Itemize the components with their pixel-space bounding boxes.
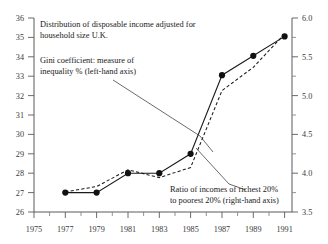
chart-title-note-line: Distribution of disposable income adjust… bbox=[40, 20, 196, 29]
x-tick-label: 1989 bbox=[245, 225, 261, 234]
data-point-marker bbox=[219, 72, 225, 78]
left-tick-label: 36 bbox=[16, 14, 24, 23]
left-tick-label: 26 bbox=[16, 208, 24, 217]
x-axis-ticks bbox=[34, 212, 285, 218]
right-axis-ticks bbox=[292, 18, 298, 212]
x-tick-label: 1979 bbox=[88, 225, 104, 234]
ratio-leader-line bbox=[196, 148, 246, 190]
x-tick-label: 1983 bbox=[151, 225, 167, 234]
gini-annotation-line: inequality % (left-hand axis) bbox=[40, 67, 136, 76]
left-axis-ticks bbox=[28, 18, 34, 212]
right-axis-tick-labels: 6.0 5.5 5.0 4.5 4.0 3.5 bbox=[302, 14, 312, 217]
left-tick-label: 30 bbox=[16, 130, 24, 139]
left-axis-tick-labels: 36 35 34 33 32 31 30 29 28 27 26 bbox=[16, 14, 24, 217]
x-tick-label: 1981 bbox=[120, 225, 136, 234]
data-point-marker bbox=[94, 190, 100, 196]
data-point-marker bbox=[250, 53, 256, 59]
left-tick-label: 34 bbox=[16, 53, 24, 62]
left-tick-label: 28 bbox=[16, 169, 24, 178]
right-tick-label: 6.0 bbox=[302, 14, 312, 23]
gini-annotation-line: Gini coefficient: measure of bbox=[40, 56, 134, 65]
data-point-marker bbox=[125, 170, 131, 176]
ratio-annotation-line: to poorest 20% (right-hand axis) bbox=[170, 196, 279, 205]
left-tick-label: 27 bbox=[16, 189, 24, 198]
x-tick-label: 1991 bbox=[276, 225, 292, 234]
x-tick-label: 1975 bbox=[26, 225, 42, 234]
data-point-marker bbox=[188, 151, 194, 157]
right-tick-label: 3.5 bbox=[302, 208, 312, 217]
chart-title-note-line: household size U.K. bbox=[40, 31, 108, 40]
ratio-annotation-line: Ratio of incomes of richest 20% bbox=[170, 185, 278, 194]
axis-frame bbox=[34, 18, 292, 212]
chart-container: 36 35 34 33 32 31 30 29 28 27 26 bbox=[0, 0, 328, 244]
income-distribution-chart: 36 35 34 33 32 31 30 29 28 27 26 bbox=[0, 0, 328, 244]
right-tick-label: 5.5 bbox=[302, 53, 312, 62]
left-tick-label: 32 bbox=[16, 92, 24, 101]
x-tick-label: 1977 bbox=[57, 225, 73, 234]
x-axis-tick-labels: 1975 1977 1979 1981 1983 1985 1987 1989 … bbox=[26, 225, 293, 234]
chart-title-note: Distribution of disposable income adjust… bbox=[40, 20, 196, 40]
ratio-annotation: Ratio of incomes of richest 20% to poore… bbox=[170, 185, 279, 205]
left-tick-label: 31 bbox=[16, 111, 24, 120]
x-tick-label: 1985 bbox=[182, 225, 198, 234]
gini-leader-line bbox=[113, 80, 213, 152]
data-point-marker bbox=[282, 33, 288, 39]
left-tick-label: 35 bbox=[16, 33, 24, 42]
right-tick-label: 5.0 bbox=[302, 92, 312, 101]
data-point-marker bbox=[156, 170, 162, 176]
left-tick-label: 33 bbox=[16, 72, 24, 81]
data-point-marker bbox=[62, 190, 68, 196]
left-tick-label: 29 bbox=[16, 150, 24, 159]
gini-annotation: Gini coefficient: measure of inequality … bbox=[40, 56, 136, 76]
right-tick-label: 4.0 bbox=[302, 169, 312, 178]
x-tick-label: 1987 bbox=[214, 225, 230, 234]
right-tick-label: 4.5 bbox=[302, 130, 312, 139]
